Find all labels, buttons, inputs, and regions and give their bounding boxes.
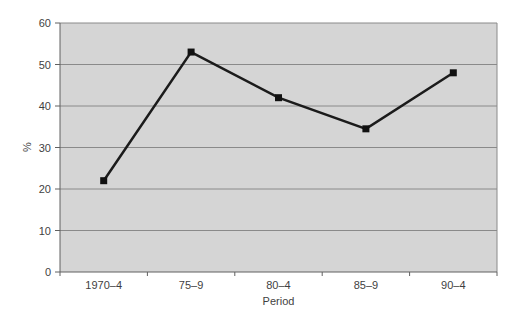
x-axis-tick-label: 85–9 xyxy=(354,279,378,291)
y-axis-title: % xyxy=(21,133,35,161)
y-axis-tick-label: 0 xyxy=(45,266,51,278)
data-point-marker xyxy=(450,69,457,76)
x-axis-tick-label: 75–9 xyxy=(179,279,203,291)
chart-canvas: 01020304050601970–475–980–485–990–4 xyxy=(0,0,526,328)
data-point-marker xyxy=(275,94,282,101)
data-point-marker xyxy=(100,177,107,184)
y-axis-tick-label: 50 xyxy=(39,59,51,71)
y-axis-tick-label: 30 xyxy=(39,142,51,154)
x-axis-tick-label: 1970–4 xyxy=(85,279,122,291)
x-axis-title: Period xyxy=(60,295,497,307)
x-axis-tick-label: 80–4 xyxy=(266,279,290,291)
data-point-marker xyxy=(362,125,369,132)
data-point-marker xyxy=(188,49,195,56)
y-axis-tick-label: 20 xyxy=(39,183,51,195)
line-chart: 01020304050601970–475–980–485–990–4 Peri… xyxy=(0,0,526,328)
x-axis-tick-label: 90–4 xyxy=(441,279,465,291)
y-axis-tick-label: 60 xyxy=(39,17,51,29)
y-axis-tick-label: 10 xyxy=(39,225,51,237)
y-axis-tick-label: 40 xyxy=(39,100,51,112)
